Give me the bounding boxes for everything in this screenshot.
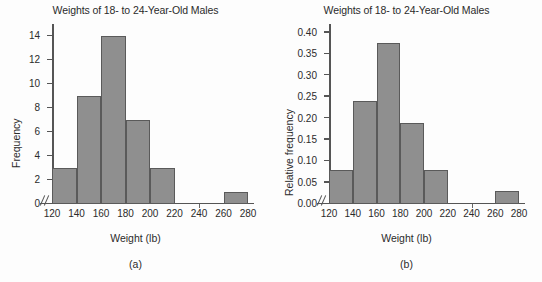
histogram-bar [77,96,102,204]
x-tick-label-b-8: 280 [511,208,528,219]
y-tick-label-a-1: 2 [34,174,40,185]
y-tick-label-a-3: 6 [34,126,40,137]
y-tick-b-8: 0.40 [324,31,329,33]
histogram-bar [424,170,448,204]
y-tick-label-b-7: 0.35 [298,48,317,59]
y-tick-label-b-5: 0.25 [298,91,317,102]
x-tick-label-a-0: 120 [44,208,61,219]
histogram-bar [224,192,249,204]
histogram-bar [126,120,151,204]
y-tick-b-7: 0.35 [324,53,329,55]
histogram-bar [101,36,126,204]
x-tick-label-b-4: 200 [416,208,433,219]
y-tick-label-a-4: 8 [34,102,40,113]
x-tick-b-6 [472,204,473,208]
histogram-bar [329,170,353,204]
x-axis-label-b: Weight (lb) [271,232,542,244]
y-tick-label-a-5: 10 [29,78,40,89]
x-tick-label-a-5: 220 [166,208,183,219]
x-tick-label-a-8: 280 [240,208,257,219]
x-tick-label-b-5: 220 [439,208,456,219]
x-tick-label-a-7: 260 [215,208,232,219]
y-tick-label-a-2: 4 [34,150,40,161]
chart-panel-b: Weights of 18- to 24-Year-Old Males Rela… [271,0,542,282]
y-tick-b-6: 0.30 [324,74,329,76]
y-tick-a-7: 14 [47,35,52,37]
y-tick-label-b-6: 0.30 [298,69,317,80]
x-tick-label-a-3: 180 [117,208,134,219]
chart-title-a: Weights of 18- to 24-Year-Old Males [0,4,271,16]
y-tick-label-b-3: 0.15 [298,133,317,144]
histogram-bar [150,168,175,204]
y-tick-label-a-6: 12 [29,54,40,65]
x-tick-label-b-2: 160 [368,208,385,219]
y-axis-label-a: Frequency [10,118,22,168]
histogram-bar [495,191,519,204]
y-tick-b-3: 0.15 [324,138,329,140]
x-tick-label-b-6: 240 [463,208,480,219]
histogram-figure: Weights of 18- to 24-Year-Old Males Freq… [0,0,542,282]
plot-area-a: 02468101214120140160180200220240260280 [52,24,248,204]
plot-area-b: 0.000.050.100.150.200.250.300.350.401201… [329,24,519,204]
panel-caption-b: (b) [271,258,542,270]
histogram-bar [400,123,424,204]
x-tick-label-a-2: 160 [93,208,110,219]
y-tick-label-a-0: 0 [34,198,40,209]
y-tick-label-a-7: 14 [29,30,40,41]
panel-caption-a: (a) [0,258,271,270]
y-tick-label-b-0: 0.00 [298,198,317,209]
x-tick-a-6 [199,204,200,208]
x-tick-label-b-3: 180 [392,208,409,219]
y-tick-label-b-4: 0.20 [298,112,317,123]
x-tick-label-a-1: 140 [68,208,85,219]
y-tick-a-2: 4 [47,155,52,157]
histogram-bar [52,168,77,204]
y-tick-a-6: 12 [47,59,52,61]
x-axis-label-a: Weight (lb) [0,232,271,244]
y-tick-b-2: 0.10 [324,160,329,162]
y-tick-a-5: 10 [47,83,52,85]
x-tick-label-a-6: 240 [191,208,208,219]
chart-panel-a: Weights of 18- to 24-Year-Old Males Freq… [0,0,271,282]
x-tick-label-b-7: 260 [487,208,504,219]
y-tick-a-4: 8 [47,107,52,109]
histogram-bar [377,43,401,204]
x-tick-label-a-4: 200 [142,208,159,219]
y-tick-label-b-1: 0.05 [298,176,317,187]
y-tick-label-b-8: 0.40 [298,26,317,37]
y-tick-label-b-2: 0.10 [298,155,317,166]
y-axis-label-b: Relative frequency [283,109,295,196]
x-tick-label-b-0: 120 [321,208,338,219]
chart-title-b: Weights of 18- to 24-Year-Old Males [271,4,542,16]
axis-break-icon-b [316,195,330,207]
x-tick-label-b-1: 140 [344,208,361,219]
histogram-bar [353,101,377,204]
y-tick-b-5: 0.25 [324,95,329,97]
y-tick-b-4: 0.20 [324,117,329,119]
axis-break-icon-a [39,195,53,207]
y-tick-a-3: 6 [47,131,52,133]
